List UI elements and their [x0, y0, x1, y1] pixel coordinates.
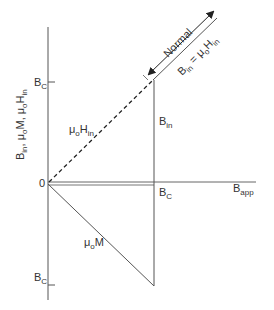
y-tick-lower-label: BC	[34, 271, 47, 286]
y-tick-upper-label: BC	[34, 76, 47, 91]
normal-arrow-tick	[143, 75, 148, 80]
origin-label: 0	[39, 177, 45, 189]
h-in-label: μoHin	[69, 123, 94, 138]
y-axis-label: Bin, μoM, μoHin	[14, 89, 29, 160]
mu-m-line	[48, 184, 154, 286]
h-in-dashed-line	[49, 80, 153, 182]
mu-m-label: μoM	[84, 236, 104, 251]
x-axis-label: Bapp	[233, 182, 254, 197]
b-in-label: Bin	[159, 115, 173, 130]
diagram-canvas: Bin, μoM, μoHin BC BC 0 BC Bapp μoHin Bi…	[0, 0, 274, 310]
x-tick-bc-label: BC	[159, 186, 172, 201]
